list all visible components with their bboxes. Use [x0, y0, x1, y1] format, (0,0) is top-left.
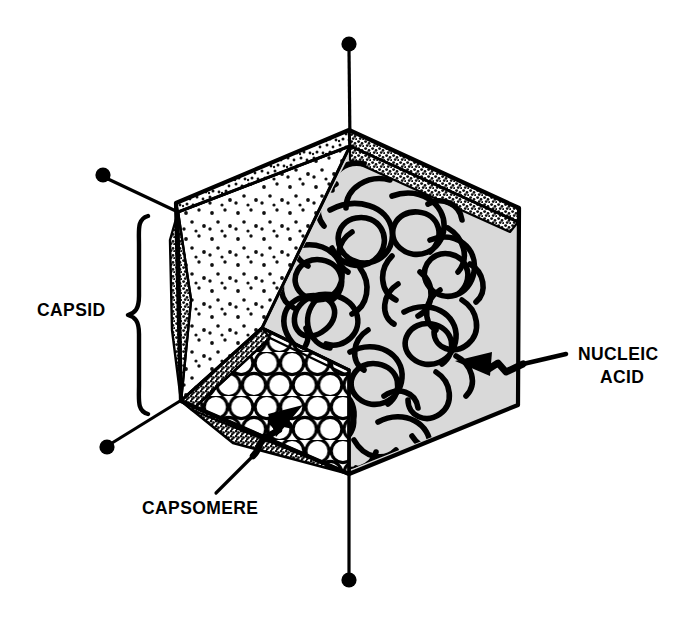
nucleic-acid-label-line2: ACID [600, 367, 644, 387]
nucleic-acid-leader-line [523, 354, 566, 364]
capsid-annotation: CAPSID [37, 216, 148, 414]
nucleic-acid-label-line1: NUCLEIC [578, 344, 659, 364]
capsid-brace-icon [128, 216, 148, 414]
icosahedral-virus-svg: CAPSID CAPSOMERE NUCLEIC ACID [0, 0, 699, 621]
capsomere-label: CAPSOMERE [142, 498, 258, 518]
capsid-shell-group [170, 130, 519, 485]
virus-diagram-figure: CAPSID CAPSOMERE NUCLEIC ACID [0, 0, 699, 621]
capsomere-leader-line [216, 456, 253, 493]
pin-bottom [341, 474, 356, 588]
pin-upper-left [95, 167, 178, 212]
capsid-label: CAPSID [37, 300, 106, 320]
